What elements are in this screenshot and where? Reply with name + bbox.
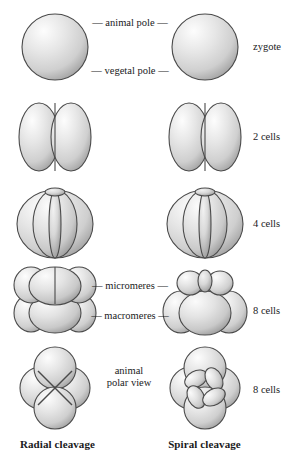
row-zygote-right-spiral (172, 14, 238, 80)
label-micromeres: — micromeres — (84, 281, 176, 292)
stage-label-4-cells: 4 cells (253, 219, 280, 230)
label-macromeres: — macromeres — (84, 311, 176, 322)
label-animal-polar-view: animal polar view (106, 365, 152, 390)
caption-radial-cleavage: Radial cleavage (5, 439, 110, 450)
row-polar-left-radial-cross (20, 347, 90, 429)
row-two-cells-left-radial (19, 103, 91, 171)
stage-label-8-cells-polar: 8 cells (253, 385, 280, 396)
row-polar-right-spiral-pinwheel (170, 347, 240, 429)
stage-label-zygote: zygote (253, 42, 281, 53)
row-four-cells-right-spiral (167, 188, 243, 258)
stage-label-2-cells: 2 cells (253, 132, 280, 143)
stage-label-8-cells-lateral: 8 cells (253, 306, 280, 317)
row-four-cells-left-radial (17, 188, 93, 258)
label-animal-pole: — animal pole — (88, 18, 172, 29)
row-zygote-left-radial (22, 14, 88, 80)
caption-spiral-cleavage: Spiral cleavage (152, 439, 257, 450)
row-two-cells-right-spiral (169, 103, 241, 171)
label-vegetal-pole: — vegetal pole — (88, 66, 172, 77)
cleavage-diagram: — animal pole — — vegetal pole — — micro… (0, 0, 299, 468)
row-eight-cells-left-radial (14, 267, 96, 333)
row-eight-cells-right-spiral (163, 270, 247, 335)
